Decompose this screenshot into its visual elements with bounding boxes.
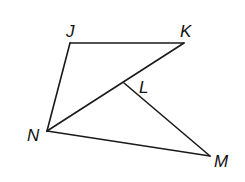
point-label-m: M bbox=[214, 152, 229, 171]
point-label-l: L bbox=[139, 78, 148, 97]
segment-nk bbox=[47, 43, 184, 131]
point-label-n: N bbox=[27, 126, 40, 145]
point-label-k: K bbox=[180, 22, 192, 41]
geometry-diagram: JKLNM bbox=[0, 0, 245, 182]
point-label-j: J bbox=[65, 22, 75, 41]
diagram-canvas: JKLNM bbox=[0, 0, 245, 182]
